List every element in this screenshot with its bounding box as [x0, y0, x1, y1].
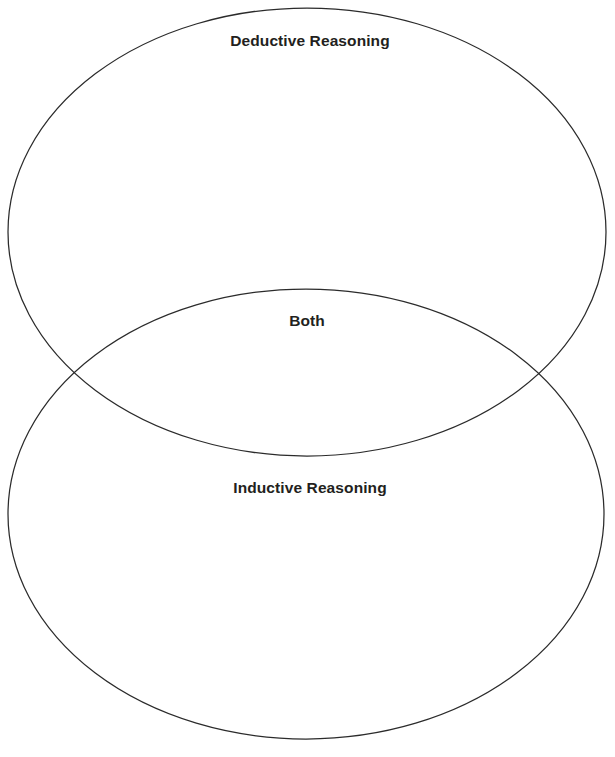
venn-label-inductive: Inductive Reasoning [233, 479, 386, 497]
venn-label-deductive: Deductive Reasoning [230, 32, 390, 50]
venn-diagram: Deductive Reasoning Both Inductive Reaso… [0, 0, 615, 757]
venn-label-both: Both [289, 312, 325, 330]
diagram-background [0, 0, 615, 757]
venn-diagram-canvas [0, 0, 615, 757]
